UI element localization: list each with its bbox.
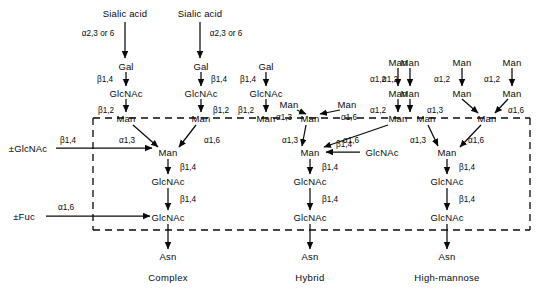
residue-man-core-hybrid: Man xyxy=(301,147,320,158)
residue-glcnac-core1-hybrid: GlcNAc xyxy=(293,176,326,187)
linkage-lnk-b12-2: β1,2 xyxy=(213,106,229,115)
residue-man-hyb-13: Man xyxy=(280,99,299,110)
residue-man-hm-mid-3: Man xyxy=(503,88,522,99)
residue-sialic-acid-2: Sialic acid xyxy=(178,8,222,19)
linkage-lnk-gal-1: β1,4 xyxy=(97,75,113,84)
category-hybrid: Hybrid xyxy=(295,272,324,283)
residue-man-core-highmannose: Man xyxy=(438,147,457,158)
linkage-lnk-hm-a12-1: α1,2 xyxy=(382,75,398,84)
residue-asn-highmannose: Asn xyxy=(439,251,456,262)
residue-gal-1: Gal xyxy=(118,61,133,72)
linkage-lnk-hm-arm-a16: α1,6 xyxy=(468,136,484,145)
residue-glcnac-core2-complex: GlcNAc xyxy=(151,212,184,223)
residue-glcnac-antenna-2: GlcNAc xyxy=(184,88,217,99)
linkage-lnk-hyb-a13: α1,3 xyxy=(276,113,292,122)
linkage-lnk-b14-core1-hybrid: β1,4 xyxy=(322,163,338,172)
linkage-lnk-hm-a12-2: α1,2 xyxy=(434,75,450,84)
linkage-lnk-b14-core1-complex: β1,4 xyxy=(180,163,196,172)
linkage-lnk-gal-3: β1,4 xyxy=(240,75,256,84)
linkage-lnk-b12-3: β1,2 xyxy=(238,106,254,115)
residue-man-hm-top-3: Man xyxy=(503,57,522,68)
linkage-lnk-b14-core2-hybrid: β1,4 xyxy=(322,195,338,204)
residue-man-hyb-16: Man xyxy=(338,99,357,110)
linkage-lnk-b12-1: β1,2 xyxy=(98,106,114,115)
linkage-lnk-hm-a13-mid: α1,3 xyxy=(427,106,443,115)
residue-man-hm-top-2: Man xyxy=(453,57,472,68)
residue-gal-3: Gal xyxy=(258,61,273,72)
linkage-lnk-hm-a16-mid: α1,6 xyxy=(508,106,524,115)
linkage-lnk-sia-1: α2,3 or 6 xyxy=(82,29,115,38)
residue-sialic-acid-1: Sialic acid xyxy=(103,8,147,19)
linkage-lnk-bisect: β1,4 xyxy=(336,140,352,149)
residue-glcnac-core2-hm: GlcNAc xyxy=(430,212,463,223)
residue-glcnac-antenna-1: GlcNAc xyxy=(109,88,142,99)
residue-glcnac-core2-hybrid: GlcNAc xyxy=(293,212,326,223)
residue-man-core-complex: Man xyxy=(159,147,178,158)
residue-optional-fuc: ±Fuc xyxy=(13,211,35,222)
residue-asn-complex: Asn xyxy=(160,251,177,262)
residue-glcnac-bisecting: GlcNAc xyxy=(365,147,398,158)
residue-glcnac-core1-hm: GlcNAc xyxy=(430,176,463,187)
linkage-lnk-hyb-a12-mid: α1,2 xyxy=(370,106,386,115)
linkage-lnk-hyb-a16: α1,6 xyxy=(341,113,357,122)
residue-glcnac-antenna-3: GlcNAc xyxy=(249,88,282,99)
linkage-lnk-hyb-arm-a13: α1,3 xyxy=(282,136,298,145)
linkage-lnk-a13-complex: α1,3 xyxy=(119,136,135,145)
linkage-lnk-fuc: α1,6 xyxy=(58,203,74,212)
residue-optional-glcnac: ±GlcNAc xyxy=(9,143,47,154)
residue-man-hm-mid-1: Man xyxy=(401,88,420,99)
residue-asn-hybrid: Asn xyxy=(302,251,319,262)
residue-man-hm-top-1: Man xyxy=(401,57,420,68)
linkage-lnk-gal-2: β1,4 xyxy=(211,75,227,84)
residue-man-hm-arm-right: Man xyxy=(478,113,497,124)
linkage-lnk-b14-core1-hm: β1,4 xyxy=(459,163,475,172)
residue-man-arm-complex-c: Man xyxy=(257,113,276,124)
residue-man-arm-complex-a: Man xyxy=(117,113,136,124)
linkage-lnk-a16-complex: α1,6 xyxy=(204,136,220,145)
linkage-lnk-b14-core2-complex: β1,4 xyxy=(180,195,196,204)
residue-man-hm-mid-2: Man xyxy=(453,88,472,99)
residue-man-arm-complex-b: Man xyxy=(192,113,211,124)
residue-glcnac-core1-complex: GlcNAc xyxy=(151,176,184,187)
linkage-lnk-b14-bis-complex: β1,4 xyxy=(60,136,76,145)
linkage-lnk-hm-arm-a13: α1,3 xyxy=(410,136,426,145)
residue-gal-2: Gal xyxy=(193,61,208,72)
residue-man-hyb-arm-left: Man xyxy=(301,113,320,124)
diagram-arrows-layer xyxy=(0,0,544,293)
linkage-lnk-b14-core2-hm: β1,4 xyxy=(459,195,475,204)
category-complex: Complex xyxy=(148,272,188,283)
glycan-structure-diagram: Sialic acidSialic acidGalGalGalGlcNAcGlc… xyxy=(0,0,544,293)
category-high-mannose: High-mannose xyxy=(414,272,479,283)
linkage-lnk-sia-2: α2,3 or 6 xyxy=(210,29,243,38)
linkage-lnk-hm-a12-3: α1,2 xyxy=(484,75,500,84)
residue-man-hyb-arm-right: Man xyxy=(389,113,408,124)
